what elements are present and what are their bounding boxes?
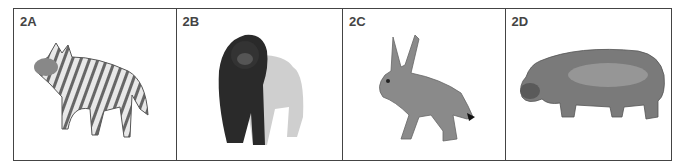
gorilla-illustration (205, 27, 315, 152)
hippopotamus-illustration (518, 41, 668, 131)
panel-label: 2C (349, 14, 366, 29)
panel-2b: 2B (177, 9, 344, 160)
panel-label: 2D (512, 14, 529, 29)
panel-2d: 2D (506, 9, 672, 160)
panel-label: 2A (20, 14, 37, 29)
panel-2c: 2C (343, 9, 506, 160)
panel-2a: 2A (14, 9, 177, 160)
hyena-illustration (28, 37, 158, 147)
panel-label: 2B (183, 14, 200, 29)
hare-illustration (371, 31, 481, 151)
animal-panel-grid: 2A 2B 2C 2D (13, 8, 672, 161)
